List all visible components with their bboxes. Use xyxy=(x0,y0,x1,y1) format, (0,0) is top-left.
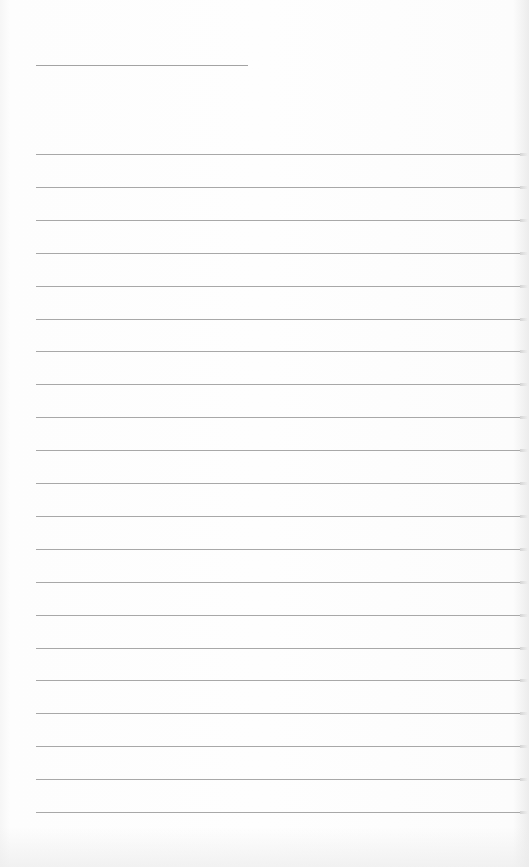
ruled-line-edge-shadow xyxy=(520,679,528,682)
ruled-line[interactable] xyxy=(36,549,520,550)
ruled-line[interactable] xyxy=(36,187,520,188)
ruled-line[interactable] xyxy=(36,154,520,155)
ruled-line[interactable] xyxy=(36,779,520,780)
ruled-line[interactable] xyxy=(36,746,520,747)
ruled-line-edge-shadow xyxy=(520,548,528,551)
ruled-line-edge-shadow xyxy=(520,614,528,617)
ruled-line-edge-shadow xyxy=(520,581,528,584)
ruled-line-edge-shadow xyxy=(520,482,528,485)
ruled-line-edge-shadow xyxy=(520,252,528,255)
ruled-line[interactable] xyxy=(36,319,520,320)
ruled-line-edge-shadow xyxy=(520,811,528,814)
ruled-line-edge-shadow xyxy=(520,745,528,748)
ruled-line[interactable] xyxy=(36,220,520,221)
lined-paper-sheet xyxy=(0,0,529,867)
ruled-line[interactable] xyxy=(36,713,520,714)
title-line[interactable] xyxy=(36,65,248,66)
ruled-line[interactable] xyxy=(36,615,520,616)
ruled-line-edge-shadow xyxy=(520,449,528,452)
ruled-line[interactable] xyxy=(36,417,520,418)
paper-shadow xyxy=(0,827,529,867)
ruled-line[interactable] xyxy=(36,516,520,517)
ruled-line[interactable] xyxy=(36,582,520,583)
ruled-line[interactable] xyxy=(36,648,520,649)
ruled-line[interactable] xyxy=(36,680,520,681)
ruled-line-edge-shadow xyxy=(520,350,528,353)
ruled-line-edge-shadow xyxy=(520,318,528,321)
ruled-line[interactable] xyxy=(36,384,520,385)
ruled-line[interactable] xyxy=(36,286,520,287)
ruled-line-edge-shadow xyxy=(520,778,528,781)
ruled-line-edge-shadow xyxy=(520,416,528,419)
ruled-line-edge-shadow xyxy=(520,153,528,156)
ruled-line-edge-shadow xyxy=(520,186,528,189)
ruled-line[interactable] xyxy=(36,351,520,352)
ruled-line-edge-shadow xyxy=(520,383,528,386)
ruled-line[interactable] xyxy=(36,812,520,813)
ruled-line-edge-shadow xyxy=(520,219,528,222)
ruled-line[interactable] xyxy=(36,450,520,451)
ruled-line-edge-shadow xyxy=(520,647,528,650)
ruled-line[interactable] xyxy=(36,483,520,484)
ruled-line-edge-shadow xyxy=(520,285,528,288)
ruled-line-edge-shadow xyxy=(520,515,528,518)
ruled-line[interactable] xyxy=(36,253,520,254)
ruled-line-edge-shadow xyxy=(520,712,528,715)
